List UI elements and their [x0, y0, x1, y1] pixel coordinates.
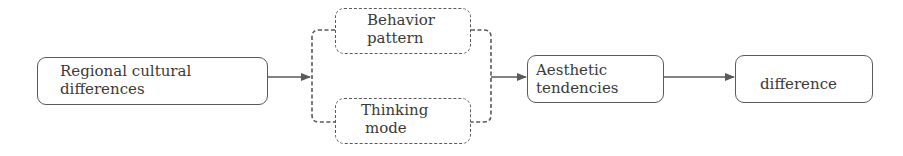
node-label-line1: Aesthetic	[536, 62, 607, 79]
left-bracket	[312, 30, 335, 122]
node-label-line2: pattern	[367, 30, 423, 47]
node-label-line1: Behavior	[367, 12, 435, 29]
right-bracket	[471, 30, 491, 122]
node-label-line2: mode	[365, 120, 407, 137]
node-regional-cultural-differences: Regional cultural differences	[37, 57, 268, 105]
node-difference: difference	[735, 55, 873, 103]
node-label-line2: tendencies	[536, 80, 618, 97]
node-label-line2: differences	[60, 81, 145, 98]
flowchart-canvas: Regional cultural differences Behavior p…	[0, 0, 903, 156]
node-aesthetic-tendencies: Aesthetic tendencies	[527, 55, 664, 103]
node-label-line1: Thinking	[361, 102, 428, 119]
node-label: difference	[760, 76, 837, 93]
node-behavior-pattern: Behavior pattern	[335, 8, 471, 54]
node-label-line1: Regional cultural	[60, 63, 191, 80]
node-thinking-mode: Thinking mode	[335, 98, 471, 144]
